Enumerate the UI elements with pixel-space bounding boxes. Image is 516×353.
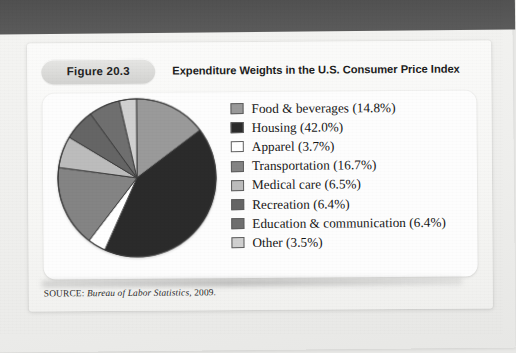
page-top-dark-band [0,0,515,35]
legend-item: Food & beverages (14.8%) [230,98,468,119]
figure-header: Figure 20.3 Expenditure Weights in the U… [27,54,491,85]
figure-card: Figure 20.3 Expenditure Weights in the U… [27,40,493,311]
source-note: SOURCE: Bureau of Labor Statistics, 2009… [44,287,216,298]
figure-title: Expenditure Weights in the U.S. Consumer… [172,63,460,77]
source-organization: Bureau of Labor Statistics [87,287,189,298]
legend-item: Housing (42.0%) [231,117,469,138]
legend-label: Housing (42.0%) [252,119,344,136]
legend-swatch-icon [231,142,244,153]
legend-item: Other (3.5%) [231,232,469,253]
legend-swatch-icon [231,180,244,191]
legend-label: Medical care (6.5%) [252,177,361,194]
legend-label: Education & communication (6.4%) [252,214,446,231]
source-year: , 2009. [189,287,216,297]
legend-label: Other (3.5%) [252,234,322,250]
legend-item: Transportation (16.7%) [231,155,469,176]
legend-item: Medical care (6.5%) [231,174,469,195]
legend-label: Apparel (3.7%) [252,138,335,155]
legend-item: Recreation (6.4%) [231,193,469,214]
legend-swatch-icon [231,161,244,172]
chart-panel: Food & beverages (14.8%)Housing (42.0%)A… [42,90,477,279]
source-prefix: SOURCE: [44,288,87,298]
pie-chart [55,96,218,259]
legend-swatch-icon [231,218,244,229]
legend-swatch-icon [231,122,244,133]
legend-label: Food & beverages (14.8%) [251,100,395,117]
legend-item: Apparel (3.7%) [231,136,469,157]
legend-swatch-icon [231,238,244,249]
figure-number-badge: Figure 20.3 [41,58,155,84]
legend-label: Transportation (16.7%) [252,157,377,174]
legend-swatch-icon [231,199,244,210]
chart-legend: Food & beverages (14.8%)Housing (42.0%)A… [230,98,469,253]
legend-label: Recreation (6.4%) [252,196,350,213]
legend-item: Education & communication (6.4%) [231,213,469,234]
pie-chart-svg [55,96,218,259]
legend-swatch-icon [230,103,243,114]
